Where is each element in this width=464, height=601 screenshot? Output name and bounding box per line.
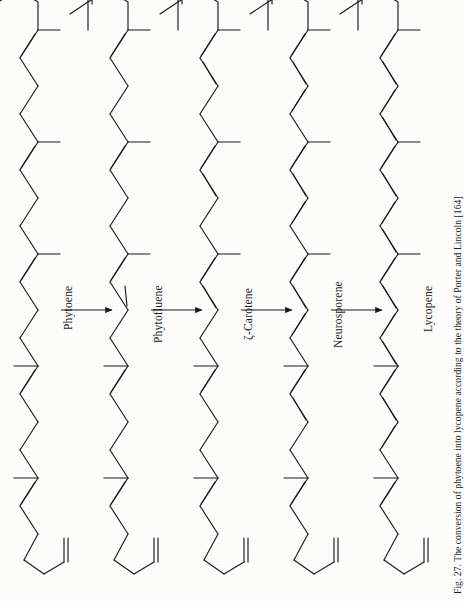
label-zeta-carotene: ζ-Carotene bbox=[242, 288, 254, 340]
molecule-zeta-carotene bbox=[160, 0, 248, 574]
molecule-phytofluene bbox=[70, 0, 158, 574]
figure-caption: Fig. 27. The conversion of phytoene into… bbox=[452, 196, 463, 594]
label-lycopene: Lycopene bbox=[422, 286, 434, 332]
label-neurosporene: Neurosporene bbox=[332, 281, 344, 348]
label-phytofluene: Phytofluene bbox=[152, 285, 164, 343]
label-phytoene: Phytoene bbox=[62, 286, 74, 330]
molecule-phytoene bbox=[0, 0, 68, 574]
figure-page: Phytoene Phytofluene ζ-Carotene Neurospo… bbox=[0, 0, 464, 601]
chemical-structures-figure: Phytoene Phytofluene ζ-Carotene Neurospo… bbox=[0, 0, 436, 601]
molecule-lycopene bbox=[340, 0, 428, 574]
molecule-neurosporene bbox=[250, 0, 338, 574]
